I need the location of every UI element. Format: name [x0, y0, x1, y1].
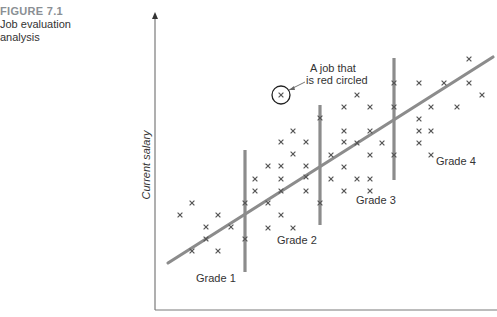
data-point-x-marker [442, 81, 447, 86]
data-point-x-marker [291, 152, 296, 157]
data-point-x-marker [266, 164, 271, 169]
annotation-text-line1: A job that [310, 62, 356, 74]
data-point-x-marker [355, 93, 360, 98]
data-point-x-marker [368, 189, 373, 194]
data-point-x-marker [368, 129, 373, 134]
data-point-x-marker [304, 140, 309, 145]
data-point-x-marker [455, 105, 460, 110]
data-point-x-marker [253, 189, 258, 194]
data-point-x-marker [204, 225, 209, 230]
y-axis-arrow-icon [152, 12, 158, 19]
grade-label-2: Grade 2 [277, 234, 317, 246]
data-point-x-marker [279, 213, 284, 218]
data-point-x-marker [342, 140, 347, 145]
annotation: A job thatis red circled [272, 62, 368, 104]
data-point-x-marker [355, 177, 360, 182]
data-point-x-marker [417, 129, 422, 134]
data-point-x-marker [417, 81, 422, 86]
data-point-x-marker [279, 177, 284, 182]
data-point-x-marker [429, 105, 434, 110]
data-point-x-marker [216, 213, 221, 218]
data-point-x-marker [216, 249, 221, 254]
data-point-x-marker [342, 129, 347, 134]
scatter-chart: Grade 1Grade 2Grade 3Grade 4 A job thati… [0, 0, 497, 317]
y-axis-label: Current salary [140, 129, 152, 200]
data-point-x-marker [342, 105, 347, 110]
data-point-x-marker [342, 189, 347, 194]
grade-label-1: Grade 1 [196, 272, 236, 284]
data-point-x-marker [417, 117, 422, 122]
grade-label-4: Grade 4 [436, 155, 476, 167]
data-point-x-marker [329, 153, 334, 158]
data-point-x-marker [380, 141, 385, 146]
data-point-x-marker [368, 153, 373, 158]
data-point-x-marker [467, 57, 472, 62]
data-point-x-marker [480, 93, 485, 98]
grade-label-3: Grade 3 [356, 194, 396, 206]
data-point-x-marker [329, 177, 334, 182]
data-point-x-marker [279, 93, 284, 98]
data-point-x-marker [291, 129, 296, 134]
data-point-x-marker [253, 177, 258, 182]
data-point-x-marker [304, 189, 309, 194]
data-point-x-marker [190, 201, 195, 206]
data-point-x-marker [417, 141, 422, 146]
data-point-x-marker [429, 153, 434, 158]
data-point-x-marker [429, 129, 434, 134]
data-point-x-marker [467, 81, 472, 86]
data-point-x-marker [342, 165, 347, 170]
data-point-x-marker [229, 225, 234, 230]
data-point-x-marker [178, 213, 183, 218]
data-point-x-marker [266, 226, 271, 231]
data-point-x-marker [279, 164, 284, 169]
data-point-x-marker [368, 177, 373, 182]
data-point-x-marker [368, 105, 373, 110]
data-point-x-marker [304, 164, 309, 169]
annotation-text-line2: is red circled [306, 74, 368, 86]
annotation-arrow-icon [289, 86, 295, 90]
data-point-x-marker [279, 140, 284, 145]
data-point-x-marker [291, 226, 296, 231]
